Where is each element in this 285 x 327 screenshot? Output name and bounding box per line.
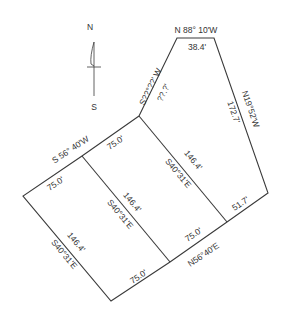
- north-arrow-icon: N S: [87, 22, 101, 112]
- compass-north-label: N: [87, 22, 93, 32]
- right-lot-side-distance: 146.4': [182, 148, 205, 172]
- lot-line-middle-right: [139, 116, 227, 222]
- top-bearing-label: N 88° 10'W: [175, 25, 218, 35]
- rear-bearing-label: N56°40'E: [186, 240, 221, 268]
- front-bearing-label: S 56° 40'W: [50, 134, 91, 166]
- outer-boundary: [23, 38, 268, 301]
- compass-south-label: S: [91, 102, 97, 112]
- top-distance-label: 38.4': [188, 42, 207, 52]
- right-distance-label: 172.7': [225, 100, 242, 125]
- middle-lot-front-distance: 75.0': [105, 133, 126, 152]
- compass-arrow-half: [91, 42, 94, 66]
- survey-plat: N S N 88° 10'W 38.4' S??°??' W ??.?' N19…: [0, 0, 285, 327]
- upper-left-distance-label: ??.?': [155, 82, 172, 103]
- right-lot-rear-distance: 51.7': [230, 194, 251, 213]
- lot-line-left-middle: [82, 156, 170, 262]
- left-lot-front-distance: 75.0': [45, 174, 66, 193]
